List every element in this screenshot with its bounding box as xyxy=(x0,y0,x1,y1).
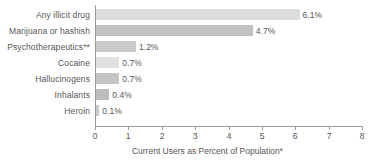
bar-row: Psychotherapeutics**1.2% xyxy=(0,39,369,55)
bar-track xyxy=(96,73,119,84)
category-label: Hallucinogens xyxy=(35,71,90,87)
category-label: Cocaine xyxy=(58,55,90,71)
bar xyxy=(96,89,109,100)
x-tick xyxy=(128,126,129,130)
bar-row: Marijuana or hashish4.7% xyxy=(0,23,369,39)
category-label: Any illicit drug xyxy=(36,7,90,23)
bar-track xyxy=(96,57,119,68)
x-tick xyxy=(329,126,330,130)
x-tick-label: 3 xyxy=(193,131,198,141)
value-label: 0.7% xyxy=(122,71,141,87)
category-label: Psychotherapeutics** xyxy=(7,39,90,55)
bar xyxy=(96,57,119,68)
x-tick xyxy=(262,126,263,130)
x-tick-label: 0 xyxy=(93,131,98,141)
x-tick-label: 7 xyxy=(327,131,332,141)
x-tick xyxy=(295,126,296,130)
value-label: 4.7% xyxy=(256,23,275,39)
x-tick-label: 8 xyxy=(360,131,365,141)
x-axis-title-text: Current Users as Percent of Population* xyxy=(132,146,283,156)
value-label: 1.2% xyxy=(139,39,158,55)
x-tick xyxy=(195,126,196,130)
x-axis-title: Current Users as Percent of Population* xyxy=(0,146,369,156)
bar-row: Any illicit drug6.1% xyxy=(0,7,369,23)
x-tick-label: 4 xyxy=(227,131,232,141)
category-label: Marijuana or hashish xyxy=(9,23,90,39)
bar xyxy=(96,105,99,116)
x-tick xyxy=(162,126,163,130)
bar-track xyxy=(96,25,253,36)
bar xyxy=(96,25,253,36)
bar xyxy=(96,41,136,52)
x-tick-label: 6 xyxy=(293,131,298,141)
bar xyxy=(96,73,119,84)
bar-rows: Any illicit drug6.1%Marijuana or hashish… xyxy=(0,7,369,119)
bar-row: Heroin0.1% xyxy=(0,103,369,119)
bar-row: Hallucinogens0.7% xyxy=(0,71,369,87)
x-tick-label: 5 xyxy=(260,131,265,141)
bar-track xyxy=(96,9,300,20)
bar-track xyxy=(96,89,109,100)
value-label: 0.1% xyxy=(102,103,121,119)
value-label: 0.4% xyxy=(112,87,131,103)
bar-track xyxy=(96,105,99,116)
bar-track xyxy=(96,41,136,52)
bar-row: Inhalants0.4% xyxy=(0,87,369,103)
x-tick xyxy=(362,126,363,130)
category-label: Inhalants xyxy=(55,87,90,103)
value-label: 6.1% xyxy=(303,7,322,23)
x-tick xyxy=(95,126,96,130)
bar-chart: Any illicit drug6.1%Marijuana or hashish… xyxy=(0,0,369,163)
bar-row: Cocaine0.7% xyxy=(0,55,369,71)
bar xyxy=(96,9,300,20)
x-tick xyxy=(229,126,230,130)
x-tick-label: 2 xyxy=(160,131,165,141)
value-label: 0.7% xyxy=(122,55,141,71)
category-label: Heroin xyxy=(64,103,90,119)
x-tick-label: 1 xyxy=(126,131,131,141)
